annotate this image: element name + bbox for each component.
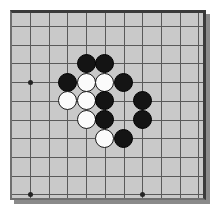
stone-white[interactable]: [95, 73, 114, 92]
stone-black[interactable]: [95, 91, 114, 110]
stone-black[interactable]: [95, 54, 114, 73]
stone-black[interactable]: [114, 73, 133, 92]
stone-black[interactable]: [114, 129, 133, 148]
stone-layer[interactable]: [12, 13, 203, 198]
stone-black[interactable]: [77, 54, 96, 73]
go-board-scene: [0, 0, 222, 214]
stone-white[interactable]: [77, 73, 96, 92]
stone-black[interactable]: [133, 110, 152, 129]
stone-white[interactable]: [58, 91, 77, 110]
stone-black[interactable]: [95, 110, 114, 129]
stone-black[interactable]: [133, 91, 152, 110]
stone-white[interactable]: [95, 129, 114, 148]
stone-white[interactable]: [77, 110, 96, 129]
stone-white[interactable]: [77, 91, 96, 110]
stone-black[interactable]: [58, 73, 77, 92]
goban[interactable]: [10, 10, 206, 200]
